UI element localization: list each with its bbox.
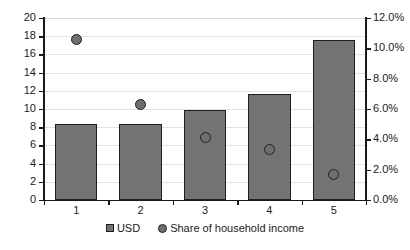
left-axis-tick-label: 10: [2, 103, 36, 114]
gridline: [44, 18, 366, 19]
x-axis-tick-label: 2: [121, 204, 161, 216]
right-axis-tick: [366, 109, 371, 110]
right-axis-tick: [366, 48, 371, 49]
right-axis-labels: 0.0%2.0%4.0%6.0%8.0%10.0%12.0%: [373, 0, 410, 250]
data-point-marker: [71, 34, 82, 45]
x-axis-tick: [366, 200, 367, 205]
legend-item[interactable]: Share of household income: [158, 222, 304, 234]
left-axis-tick: [39, 164, 44, 165]
left-axis-tick-label: 8: [2, 121, 36, 132]
gridline: [44, 36, 366, 37]
left-axis-tick-label: 6: [2, 139, 36, 150]
right-axis-tick-label: 10.0%: [373, 42, 410, 53]
left-axis-tick-label: 18: [2, 30, 36, 41]
x-axis-tick-label: 3: [185, 204, 225, 216]
bar: [184, 110, 227, 200]
x-axis-tick: [44, 200, 45, 205]
left-axis-tick: [39, 91, 44, 92]
right-axis-tick-label: 8.0%: [373, 73, 410, 84]
left-axis-tick: [39, 54, 44, 55]
circle-marker-icon: [158, 224, 167, 233]
left-axis-tick-label: 12: [2, 85, 36, 96]
chart-container: 02468101214161820 0.0%2.0%4.0%6.0%8.0%10…: [0, 0, 410, 250]
x-axis-tick-label: 4: [249, 204, 289, 216]
right-axis-tick: [366, 170, 371, 171]
x-axis-tick: [237, 200, 238, 205]
left-axis-tick-label: 0: [2, 194, 36, 205]
plot-area: [44, 18, 366, 200]
bottom-axis-line: [40, 200, 369, 202]
right-axis-tick: [366, 79, 371, 80]
legend-item-label: Share of household income: [170, 222, 304, 234]
right-axis-tick-label: 4.0%: [373, 133, 410, 144]
left-axis-tick: [39, 182, 44, 183]
right-axis-tick-label: 6.0%: [373, 103, 410, 114]
left-axis-tick: [39, 36, 44, 37]
right-axis-tick-label: 12.0%: [373, 12, 410, 23]
left-axis-tick-label: 14: [2, 67, 36, 78]
right-axis-tick: [366, 139, 371, 140]
left-axis-tick: [39, 145, 44, 146]
left-axis-tick-label: 20: [2, 12, 36, 23]
x-axis-tick-label: 1: [56, 204, 96, 216]
left-axis-tick: [39, 109, 44, 110]
square-marker-icon: [106, 224, 114, 232]
left-axis-tick: [39, 127, 44, 128]
bar: [119, 124, 162, 200]
x-axis-tick: [173, 200, 174, 205]
left-axis-tick-label: 2: [2, 176, 36, 187]
right-axis-tick-label: 2.0%: [373, 164, 410, 175]
left-axis-tick-label: 16: [2, 48, 36, 59]
left-axis-labels: 02468101214161820: [0, 0, 36, 250]
data-point-marker: [135, 99, 146, 110]
bar: [55, 124, 98, 200]
x-axis-tick: [108, 200, 109, 205]
x-axis-tick: [302, 200, 303, 205]
legend-item[interactable]: USD: [106, 222, 140, 234]
x-axis-tick-label: 5: [314, 204, 354, 216]
right-axis-tick: [366, 18, 371, 19]
legend-item-label: USD: [117, 222, 140, 234]
data-point-marker: [200, 132, 211, 143]
left-axis-tick-label: 4: [2, 158, 36, 169]
chart-legend: USDShare of household income: [0, 222, 410, 234]
left-axis-tick: [39, 73, 44, 74]
right-axis-tick-label: 0.0%: [373, 194, 410, 205]
left-axis-tick: [39, 18, 44, 19]
